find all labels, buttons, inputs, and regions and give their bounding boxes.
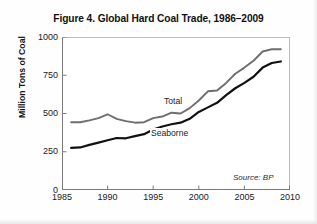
series-label-total: Total (163, 96, 183, 106)
x-tick-label: 2005 (234, 193, 254, 202)
line-total (71, 49, 281, 122)
x-axis-tick-labels: 198519901995200020052010 (0, 193, 317, 213)
source-note: Source: BP (233, 173, 273, 182)
y-tick-label: 750 (43, 71, 58, 80)
y-axis-tick-labels: 02505007501000 (24, 0, 58, 224)
y-tick-label: 250 (43, 147, 58, 156)
plot-area (62, 37, 290, 190)
chart-lines (62, 37, 290, 190)
series-label-seaborne: Seaborne (150, 128, 189, 138)
page-edge-shading-right (313, 0, 317, 224)
x-tick-label: 2010 (280, 193, 300, 202)
y-axis-title: Million Tons of Coal (17, 17, 27, 137)
figure-container: Figure 4. Global Hard Coal Trade, 1986–2… (0, 0, 317, 224)
x-tick-label: 2000 (189, 193, 209, 202)
x-tick-label: 1995 (143, 193, 163, 202)
x-tick-label: 1985 (52, 193, 72, 202)
y-tick-label: 1000 (38, 33, 58, 42)
page-edge-shading-bottom (0, 219, 317, 224)
y-tick-label: 500 (43, 109, 58, 118)
x-tick-label: 1990 (98, 193, 118, 202)
